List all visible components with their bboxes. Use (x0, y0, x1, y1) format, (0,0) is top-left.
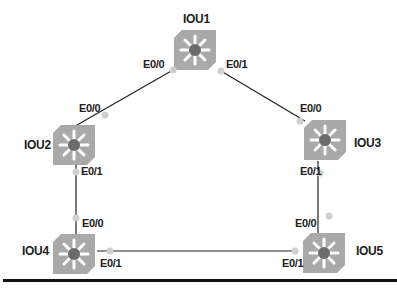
device-label-iou1: IOU1 (183, 12, 210, 26)
port-iou5-e00 (326, 213, 333, 220)
link-iou1-iou3 (221, 71, 305, 121)
device-iou5[interactable] (303, 233, 345, 273)
iface-label-iou5-e00: E0/0 (295, 217, 316, 229)
device-label-iou5: IOU5 (356, 244, 383, 258)
iface-label-iou5-e01: E0/1 (282, 257, 303, 269)
device-iou4[interactable] (53, 234, 95, 274)
port-dots (73, 67, 333, 255)
device-label-iou4: IOU4 (22, 244, 49, 258)
links (76, 70, 318, 251)
iface-label-iou1-e01: E0/1 (226, 58, 247, 70)
iface-label-iou4-e00: E0/0 (82, 217, 103, 229)
device-label-iou3: IOU3 (354, 136, 381, 150)
iface-label-iou4-e01: E0/1 (100, 257, 121, 269)
port-iou4-e00 (73, 215, 80, 222)
port-iou1-e00 (170, 67, 177, 74)
bottom-rule (3, 279, 397, 282)
port-iou5-e01 (292, 248, 299, 255)
device-iou2[interactable] (53, 125, 95, 165)
port-iou1-e01 (218, 68, 225, 75)
port-iou2-e00 (102, 112, 109, 119)
iface-label-iou1-e00: E0/0 (143, 58, 164, 70)
iface-label-iou3-e00: E0/0 (300, 102, 321, 114)
iface-label-iou2-e00: E0/0 (79, 102, 100, 114)
topology-canvas (0, 0, 397, 290)
device-label-iou2: IOU2 (24, 138, 51, 152)
port-iou4-e01 (107, 248, 114, 255)
port-iou3-e00 (297, 118, 304, 125)
iface-label-iou2-e01: E0/1 (81, 165, 102, 177)
device-iou3[interactable] (304, 120, 346, 160)
device-iou1[interactable] (174, 30, 216, 70)
link-iou1-iou2 (77, 70, 173, 125)
iface-label-iou3-e01: E0/1 (300, 165, 321, 177)
port-iou2-e01 (73, 169, 80, 176)
